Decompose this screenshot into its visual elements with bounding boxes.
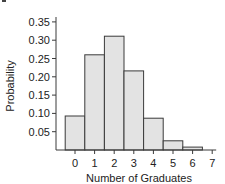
bar-0: [65, 116, 85, 150]
x-tick-label: 2: [111, 157, 117, 169]
y-tick-label: 0.15: [29, 89, 50, 101]
y-tick-label: 0.30: [29, 34, 50, 46]
bar-4: [144, 118, 164, 150]
x-tick-label: 6: [190, 157, 196, 169]
x-axis: 01234567: [56, 150, 216, 169]
x-tick-label: 7: [209, 157, 215, 169]
y-tick-label: 0.10: [29, 107, 50, 119]
y-tick-label: 0.25: [29, 53, 50, 65]
x-tick-label: 5: [170, 157, 176, 169]
x-tick-label: 0: [72, 157, 78, 169]
bars-group: [65, 36, 202, 150]
y-tick-label: 0.35: [29, 16, 50, 28]
x-axis-label: Number of Graduates: [86, 172, 192, 184]
histogram-chart: 0.050.100.150.200.250.300.35 01234567 Pr…: [0, 0, 225, 184]
y-axis: 0.050.100.150.200.250.300.35: [29, 16, 56, 150]
bar-3: [124, 71, 144, 150]
bar-5: [163, 141, 183, 150]
bar-1: [85, 55, 105, 150]
x-tick-label: 1: [92, 157, 98, 169]
y-tick-label: 0.05: [29, 126, 50, 138]
y-axis-label: Probability: [4, 60, 16, 112]
bar-2: [104, 36, 124, 150]
x-tick-label: 3: [131, 157, 137, 169]
y-tick-label: 0.20: [29, 71, 50, 83]
x-tick-label: 4: [150, 157, 156, 169]
